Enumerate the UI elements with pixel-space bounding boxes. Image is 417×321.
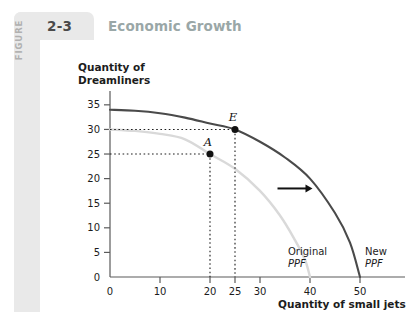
figure-number-label: 2-3 — [47, 18, 72, 34]
x-tick-label: 20 — [204, 286, 217, 297]
y-tick-label: 5 — [94, 247, 100, 258]
y-tick-label: 25 — [87, 149, 100, 160]
y-tick-label: 35 — [87, 99, 100, 110]
x-tick-label: 0 — [107, 286, 113, 297]
figure-container: FIGURE 2-3 Economic Growth Quantity of D… — [0, 0, 417, 321]
data-point-label-e: E — [228, 110, 238, 124]
y-tick-label: 15 — [87, 198, 100, 209]
x-tick-label: 50 — [354, 286, 367, 297]
figure-title: Economic Growth — [108, 18, 242, 34]
x-tick-label: 30 — [254, 286, 267, 297]
data-point-label-a: A — [203, 135, 212, 149]
y-tick-label: 10 — [87, 222, 100, 233]
ppf-chart: 510152025303500102025304050OriginalPPFNe… — [40, 40, 417, 321]
y-tick-label: 30 — [87, 124, 100, 135]
figure-kicker-label: FIGURE — [14, 10, 24, 70]
x-tick-label: 40 — [304, 286, 317, 297]
new-ppf-label-line2: PPF — [365, 258, 383, 269]
original-ppf-label-line2: PPF — [288, 258, 306, 269]
shift-arrow-head — [306, 184, 313, 192]
y-origin-label: 0 — [94, 272, 100, 283]
data-point-e — [232, 126, 239, 133]
data-point-a — [207, 151, 214, 158]
x-tick-label: 10 — [154, 286, 167, 297]
x-tick-label: 25 — [229, 286, 242, 297]
new-ppf-label-line1: New — [365, 246, 387, 257]
plot-card: Quantity of Dreamliners Quantity of smal… — [40, 40, 417, 321]
original-ppf-label-line1: Original — [288, 246, 327, 257]
y-tick-label: 20 — [87, 173, 100, 184]
